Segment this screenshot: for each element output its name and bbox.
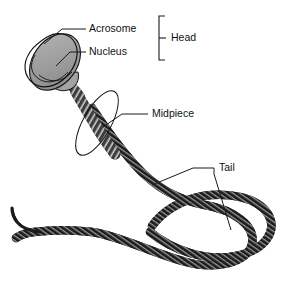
label-nucleus: Nucleus (89, 45, 127, 57)
label-tail: Tail (219, 161, 235, 173)
sperm-diagram: Acrosome Nucleus Head Midpiece Tail (0, 0, 291, 281)
sperm-cell-illustration: Acrosome Nucleus Head Midpiece Tail (0, 0, 291, 281)
label-midpiece: Midpiece (152, 107, 194, 119)
label-head: Head (171, 31, 196, 43)
label-acrosome: Acrosome (89, 22, 136, 34)
